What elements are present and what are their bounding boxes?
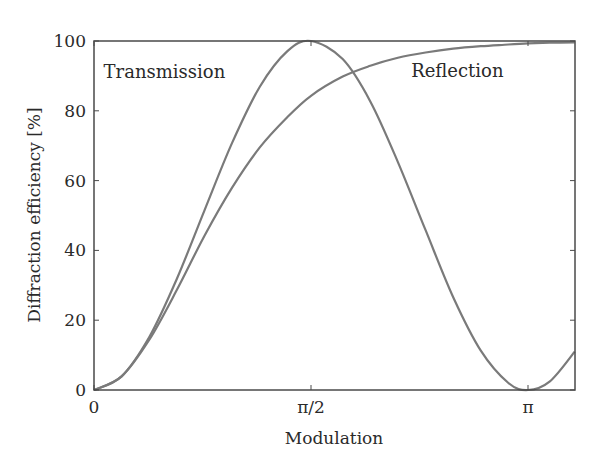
x-tick-label: 0 [89, 397, 100, 417]
y-tick-label: 20 [64, 310, 86, 330]
y-tick-label: 100 [54, 31, 86, 51]
x-axis-label: Modulation [285, 428, 384, 448]
transmission-label: Transmission [104, 61, 226, 82]
diffraction-efficiency-chart: 020406080100 0π/2π TransmissionReflectio… [0, 0, 605, 463]
x-tick-label: π [522, 397, 533, 417]
y-axis-label: Diffraction efficiency [%] [24, 107, 44, 322]
y-tick-label: 40 [64, 240, 86, 260]
transmission-curve [94, 41, 575, 390]
reflection-curve [94, 42, 575, 390]
plot-curves [94, 41, 575, 390]
y-tick-label: 60 [64, 171, 86, 191]
y-tick-label: 80 [64, 101, 86, 121]
plot-frame [94, 41, 575, 390]
y-tick-label: 0 [75, 380, 86, 400]
series-labels: TransmissionReflection [104, 60, 504, 83]
x-axis-ticks: 0π/2π [89, 41, 534, 417]
y-axis-ticks: 020406080100 [54, 31, 575, 400]
x-tick-label: π/2 [297, 397, 325, 417]
reflection-label: Reflection [411, 60, 504, 81]
